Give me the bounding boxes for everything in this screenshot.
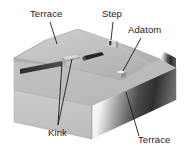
- leader-step: [111, 22, 113, 40]
- label-step: Step: [102, 9, 122, 19]
- figure-crystal-surface-diagram: Terrace Step Adatom Kink Terrace: [0, 0, 192, 157]
- label-adatom: Adatom: [128, 25, 161, 35]
- label-terrace-top: Terrace: [30, 9, 62, 19]
- label-kink: Kink: [48, 128, 67, 138]
- label-terrace-bottom: Terrace: [138, 135, 170, 145]
